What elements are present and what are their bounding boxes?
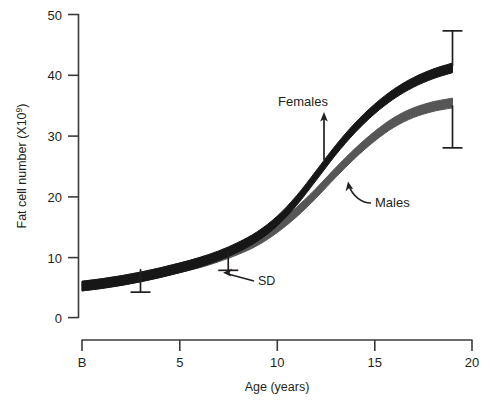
males-arrow-head-icon [346,182,354,192]
y-axis: 50 40 30 20 10 0 Fat cell number (X109) [14,8,79,326]
y-axis-title-tail: ) [15,104,29,108]
y-axis-title-base: Fat cell number (X10 [15,112,29,228]
sd-bar-males-right [443,105,463,147]
chart-canvas: 50 40 30 20 10 0 Fat cell number (X109) … [0,0,490,402]
males-annotation-label: Males [375,195,410,210]
series-layer [82,63,453,291]
x-tick-label-10: 10 [270,355,284,370]
fat-cell-number-chart: 50 40 30 20 10 0 Fat cell number (X109) … [0,0,490,402]
males-annotation: Males [346,182,411,211]
sd-arrow-shaft [228,274,254,281]
sd-annotation-label: SD [258,274,275,288]
y-tick-label-40: 40 [48,68,62,83]
sd-annotation: SD [223,269,275,288]
x-axis: B 5 10 15 20 Age (years) [78,340,480,394]
sd-bar-females-right [443,31,463,66]
error-bar-layer [131,31,463,292]
y-tick-label-30: 30 [48,129,62,144]
x-tick-label-5: 5 [176,355,183,370]
series-band-females [82,63,453,291]
y-tick-label-0: 0 [55,311,62,326]
x-tick-label-15: 15 [368,355,382,370]
males-arrow-shaft [350,187,372,204]
y-axis-title: Fat cell number (X109) [14,104,29,229]
y-axis-title-text: Fat cell number (X109) [14,104,29,229]
x-tick-label-B: B [78,355,87,370]
x-axis-title: Age (years) [245,380,310,394]
y-tick-label-20: 20 [48,190,62,205]
x-tick-label-20: 20 [465,355,479,370]
females-annotation-label: Females [278,94,328,109]
y-tick-label-50: 50 [48,8,62,23]
y-tick-label-10: 10 [48,251,62,266]
females-annotation: Females [278,94,328,160]
